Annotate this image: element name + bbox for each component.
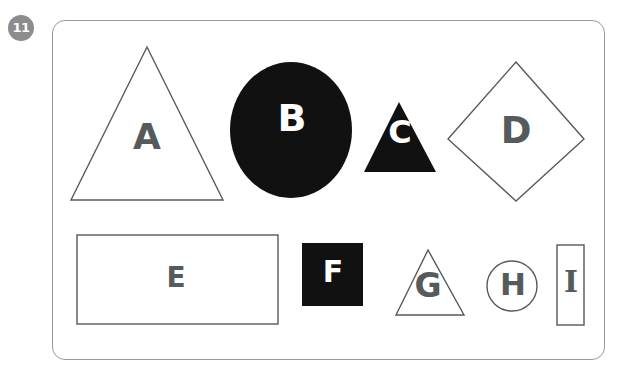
worksheet-page: 11 A B C D bbox=[0, 0, 623, 385]
shape-label-c: C bbox=[376, 116, 424, 148]
shape-label-h: H bbox=[489, 269, 537, 300]
shape-label-i: I bbox=[547, 267, 595, 297]
shape-label-e: E bbox=[152, 264, 200, 292]
shape-label-a: A bbox=[123, 119, 171, 155]
shapes-card bbox=[52, 20, 605, 360]
shape-label-d: D bbox=[492, 112, 540, 149]
shape-label-g: G bbox=[404, 269, 452, 302]
question-number-badge: 11 bbox=[8, 15, 34, 41]
shape-label-f: F bbox=[309, 257, 357, 287]
shape-label-b: B bbox=[268, 99, 316, 137]
